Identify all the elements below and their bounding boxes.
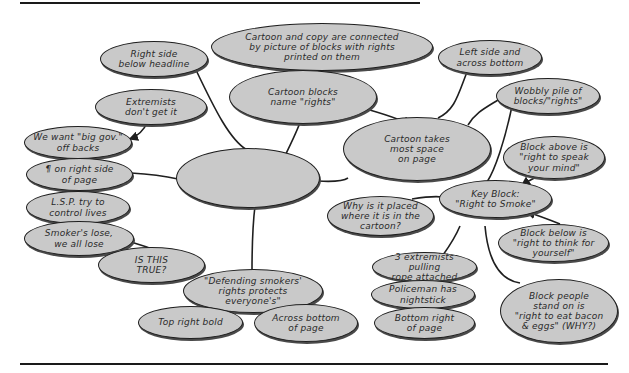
node-cartoon-blocks-name: Cartoon blocks name "rights" [229,70,377,124]
node-is-this-true: IS THIS TRUE? [98,247,205,283]
connector-wobbly-keyblock [487,106,512,182]
node-extremists-rope: 3 extremists pulling rope attached [372,252,477,282]
node-across-bottom: Across bottom of page [254,304,358,342]
node-block-below: Block below is "right to think for yours… [498,224,609,262]
node-extremists: Extremists don't get it [95,89,207,125]
node-paragraph-right-side: ¶ on right side of page [26,158,133,191]
node-policeman: Policeman has nightstick [371,280,475,309]
connector-copy-defending [252,206,255,272]
node-copy-is-limited [176,148,320,208]
node-bottom-right: Bottom right of page [374,307,475,339]
node-left-side-across-bottom: Left side and across bottom [438,40,542,75]
connector-why-keyblock [412,197,442,199]
connector-paragraph-copy [131,173,178,179]
node-lsp: L.S.P. try to control lives [26,191,130,224]
node-key-block: Key Block: "Right to Smoke" [439,180,552,218]
node-why-placed: Why is it placed where it is in the cart… [327,196,434,236]
node-big-gov: We want "big gov." off backs [24,126,132,159]
node-block-people-stand: Block people stand on is "right to eat b… [500,279,618,343]
connector-wobbly-cartoontakes [468,100,498,125]
node-top-right-bold: Top right bold [138,306,243,339]
node-cartoon-copy-connected: Cartoon and copy are connected by pictur… [211,23,433,71]
connector-copy-cartoontakes [318,178,348,181]
connector-keyblock-rope [443,226,460,255]
connector-blockbelow-keyblock [527,212,560,224]
node-cartoon-takes-space: Cartoon takes most space on page [343,117,491,181]
node-block-above: Block above is "right to speak your mind… [503,136,605,179]
mind-map: Cartoon and copy are connected by pictur… [0,0,629,373]
node-wobbly-pile: Wobbly pile of blocks/"rights" [496,78,600,114]
node-right-side-below-headline: Right side below headline [100,41,208,77]
connector-leftside-cartoontakes [438,72,467,118]
